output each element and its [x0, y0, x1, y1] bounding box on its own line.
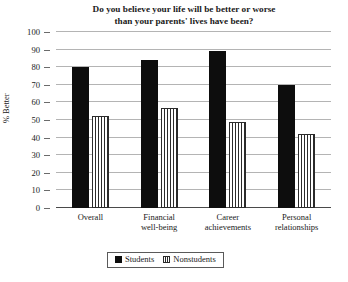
y-axis-tick-label: 30 — [31, 151, 40, 160]
legend-item-students: Students — [115, 255, 154, 264]
legend-label: Nonstudents — [173, 255, 216, 264]
y-axis-tick-mark — [44, 32, 50, 33]
y-axis-tick-label: 70 — [31, 81, 40, 90]
bar-group — [56, 32, 125, 208]
y-axis-tick-mark — [44, 67, 50, 68]
x-axis-categories: OverallFinancialwell-beingCareerachievem… — [56, 212, 331, 246]
y-axis-tick-mark — [44, 120, 50, 121]
legend-item-nonstudents: Nonstudents — [163, 255, 216, 264]
y-axis-tick-mark — [44, 155, 50, 156]
bar-group — [194, 32, 263, 208]
y-axis-tick-mark — [44, 102, 50, 103]
bar-students-2 — [209, 51, 226, 208]
y-axis-tick-label: 20 — [31, 169, 40, 178]
y-axis-tick-label: 80 — [31, 63, 40, 72]
y-axis: 0102030405060708090100 — [0, 32, 50, 208]
category-label-line: relationships — [262, 222, 331, 232]
legend-label: Students — [125, 255, 154, 264]
chart-title: Do you believe your life will be better … — [34, 4, 334, 27]
legend-swatch-solid-icon — [115, 256, 122, 263]
category-label-line: Career — [194, 212, 263, 222]
bar-nonstudents-3 — [298, 134, 315, 208]
y-axis-tick-label: 0 — [36, 204, 40, 213]
y-axis-tick-mark — [44, 208, 50, 209]
plot-area — [56, 32, 331, 208]
bar-group — [262, 32, 331, 208]
bar-students-0 — [72, 67, 89, 208]
bar-nonstudents-0 — [92, 116, 109, 208]
legend: StudentsNonstudents — [107, 252, 224, 268]
bar-group — [125, 32, 194, 208]
category-label-line: well-being — [125, 222, 194, 232]
x-axis-category-label: Careerachievements — [194, 212, 263, 233]
y-axis-tick-mark — [44, 138, 50, 139]
y-axis-tick-mark — [44, 85, 50, 86]
legend-swatch-striped-icon — [163, 256, 170, 263]
y-axis-tick-label: 40 — [31, 133, 40, 142]
y-axis-tick-mark — [44, 190, 50, 191]
bar-students-1 — [141, 60, 158, 208]
x-axis-category-label: Overall — [56, 212, 125, 222]
category-label-line: Financial — [125, 212, 194, 222]
category-label-line: achievements — [194, 222, 263, 232]
chart-title-line-2: than your parents' lives have been? — [34, 16, 334, 28]
y-axis-tick-mark — [44, 50, 50, 51]
y-axis-tick-label: 50 — [31, 116, 40, 125]
y-axis-tick-label: 90 — [31, 45, 40, 54]
y-axis-tick-label: 100 — [27, 28, 40, 37]
x-axis-category-label: Financialwell-being — [125, 212, 194, 233]
bar-students-3 — [278, 85, 295, 208]
y-axis-tick-mark — [44, 173, 50, 174]
chart-title-line-1: Do you believe your life will be better … — [34, 4, 334, 16]
x-axis-category-label: Personalrelationships — [262, 212, 331, 233]
y-axis-tick-label: 60 — [31, 98, 40, 107]
bar-nonstudents-1 — [161, 108, 178, 208]
category-label-line: Personal — [262, 212, 331, 222]
y-axis-tick-label: 10 — [31, 186, 40, 195]
category-label-line: Overall — [56, 212, 125, 222]
bar-nonstudents-2 — [229, 122, 246, 208]
